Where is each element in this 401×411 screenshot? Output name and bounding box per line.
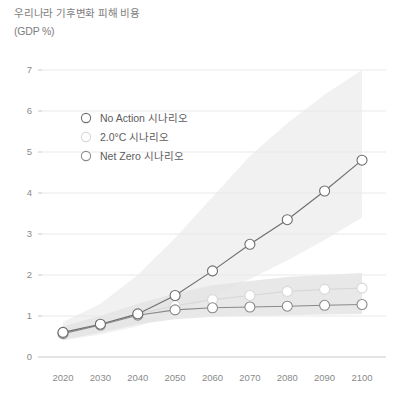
data-point-marker — [282, 215, 292, 225]
y-tick-label: 0 — [27, 351, 32, 362]
data-point-marker — [245, 291, 255, 301]
x-tick-label: 2100 — [351, 372, 372, 383]
data-point-marker — [357, 283, 367, 293]
legend-marker-icon — [81, 151, 90, 160]
y-tick-label: 3 — [27, 228, 32, 239]
y-tick-label: 2 — [27, 269, 32, 280]
data-point-marker — [282, 301, 292, 311]
legend-marker-icon — [81, 113, 90, 122]
x-tick-label: 2050 — [165, 372, 186, 383]
data-point-marker — [320, 300, 330, 310]
data-point-marker — [58, 327, 68, 337]
data-point-marker — [320, 186, 330, 196]
y-tick-label: 6 — [27, 105, 32, 116]
y-tick-label: 4 — [27, 187, 32, 198]
legend-label: No Action 시나리오 — [100, 112, 188, 124]
data-point-marker — [133, 309, 143, 319]
data-point-marker — [245, 302, 255, 312]
data-point-marker — [208, 303, 218, 313]
y-axis: 01234567 — [27, 64, 42, 362]
data-point-marker — [245, 239, 255, 249]
chart-legend: No Action 시나리오2.0°C 시나리오Net Zero 시나리오 — [81, 112, 187, 162]
climate-damage-cost-chart: 우리나라 기후변화 피해 비용 (GDP %) 01234567 2020203… — [0, 0, 401, 411]
data-point-marker — [320, 284, 330, 294]
data-point-marker — [170, 291, 180, 301]
data-point-marker — [170, 305, 180, 315]
y-tick-label: 7 — [27, 64, 32, 75]
legend-label: 2.0°C 시나리오 — [100, 131, 169, 143]
x-tick-label: 2030 — [90, 372, 111, 383]
legend-label: Net Zero 시나리오 — [100, 150, 184, 162]
y-tick-label: 5 — [27, 146, 32, 157]
data-point-marker — [357, 300, 367, 310]
x-tick-label: 2060 — [202, 372, 223, 383]
x-tick-label: 2070 — [239, 372, 260, 383]
data-point-marker — [208, 266, 218, 276]
x-tick-label: 2020 — [52, 372, 73, 383]
data-point-marker — [357, 155, 367, 165]
x-tick-label: 2040 — [127, 372, 148, 383]
x-tick-label: 2090 — [314, 372, 335, 383]
x-axis: 202020302040205020602070208020902100 — [52, 372, 372, 383]
data-point-marker — [95, 319, 105, 329]
legend-marker-icon — [81, 132, 90, 141]
chart-plot-area: 01234567 2020203020402050206020702080209… — [0, 0, 401, 411]
y-tick-label: 1 — [27, 310, 32, 321]
x-tick-label: 2080 — [277, 372, 298, 383]
data-point-marker — [282, 286, 292, 296]
